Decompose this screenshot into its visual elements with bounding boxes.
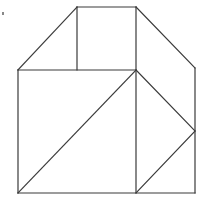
roof-right xyxy=(136,7,195,68)
corner-mark xyxy=(2,12,4,15)
right-diagonal-lower xyxy=(136,131,195,193)
right-diagonal-upper xyxy=(136,70,195,131)
roof-left xyxy=(18,7,77,70)
main-diagonal xyxy=(18,70,136,193)
diagram-edges xyxy=(18,7,195,193)
tangram-diagram xyxy=(0,0,209,206)
